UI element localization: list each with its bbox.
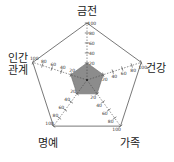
svg-text:60: 60 [50,62,56,67]
svg-text:60: 60 [121,71,127,76]
svg-text:100: 100 [112,127,121,132]
svg-text:20: 20 [102,77,108,82]
svg-text:80: 80 [41,59,47,64]
svg-text:20: 20 [90,95,96,100]
axis-label-health: 건강 [146,63,166,75]
svg-text:100: 100 [30,56,39,61]
svg-text:100: 100 [45,121,54,126]
svg-text:60: 60 [89,41,95,46]
axis-label-honor: 명예 [38,138,58,150]
svg-text:40: 40 [60,65,66,70]
radar-plot: 2040608010020406080100204060801002040608… [0,0,174,162]
axis-label-money: 금전 [77,6,97,18]
svg-text:80: 80 [89,31,95,36]
svg-text:20: 20 [69,68,75,73]
axis-label-family: 가족 [120,138,140,150]
svg-text:20: 20 [70,89,76,94]
svg-text:40: 40 [96,103,102,108]
svg-text:80: 80 [53,113,59,118]
svg-text:80: 80 [108,119,114,124]
svg-text:40: 40 [89,51,95,56]
svg-text:100: 100 [88,21,97,26]
svg-text:40: 40 [64,97,70,102]
svg-text:60: 60 [58,105,64,110]
radar-chart: 2040608010020406080100204060801002040608… [0,0,174,162]
svg-text:80: 80 [130,68,136,73]
axis-label-relationships: 인간 관계 [8,53,28,77]
svg-text:40: 40 [111,74,117,79]
svg-text:20: 20 [89,61,95,66]
svg-text:60: 60 [102,111,108,116]
